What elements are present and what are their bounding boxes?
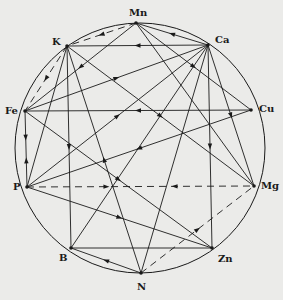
arrow-icon: [98, 31, 105, 37]
arrow-icon: [23, 135, 28, 141]
node-cu-dot: [249, 108, 253, 112]
edge-mn-mg: [136, 23, 254, 186]
edge-ca-n: [141, 45, 208, 273]
edge-p-mg: [27, 186, 254, 187]
arrow-icon: [113, 75, 120, 81]
arrow-icon: [43, 75, 50, 82]
node-n-dot: [139, 271, 143, 275]
diagram-stage: MnCaCuMgZnNBPFeK: [0, 0, 283, 300]
edges-layer: [23, 23, 254, 273]
arrow-icon: [172, 184, 178, 188]
node-mn-dot: [134, 21, 138, 25]
interaction-wheel: [0, 0, 283, 300]
node-label-ca: Ca: [215, 35, 229, 45]
arrow-icon: [102, 257, 109, 263]
node-label-mg: Mg: [261, 181, 279, 191]
edge-ca-b: [71, 45, 208, 248]
arrow-icon: [168, 31, 175, 37]
node-b-dot: [69, 246, 73, 250]
node-label-cu: Cu: [259, 104, 274, 114]
node-label-k: K: [52, 37, 61, 47]
node-mg-dot: [252, 184, 256, 188]
node-label-mn: Mn: [129, 8, 147, 18]
node-p-dot: [25, 185, 29, 189]
node-label-p: P: [13, 182, 21, 192]
edge-fe-p: [25, 111, 27, 187]
node-ca-dot: [206, 43, 210, 47]
node-label-zn: Zn: [218, 254, 233, 264]
arrow-icon: [24, 157, 29, 163]
arrow-icon: [135, 108, 141, 112]
node-k-dot: [65, 44, 69, 48]
node-label-b: B: [59, 253, 67, 263]
node-zn-dot: [210, 246, 214, 250]
arrow-icon: [134, 43, 140, 47]
arrow-icon: [103, 184, 109, 188]
node-label-fe: Fe: [5, 106, 18, 116]
node-label-n: N: [137, 282, 146, 292]
node-fe-dot: [23, 109, 27, 113]
arrow-icon: [208, 143, 213, 149]
